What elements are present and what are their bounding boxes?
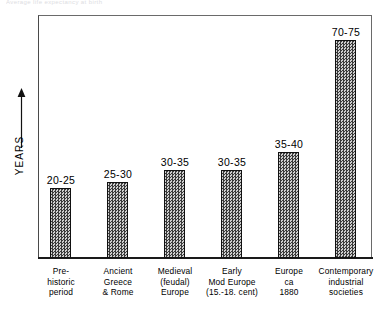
bar <box>335 40 356 258</box>
category-label-line: societies <box>307 287 385 298</box>
bar-value-label: 70-75 <box>311 26 381 38</box>
bar-value-label: 30-35 <box>197 156 267 168</box>
bar <box>278 152 299 258</box>
bar <box>107 182 128 258</box>
category-label: Contemporaryindustrialsocieties <box>307 266 385 298</box>
bar-value-label: 35-40 <box>254 138 324 150</box>
category-label-line: Contemporary <box>307 266 385 277</box>
category-label-line: industrial <box>307 277 385 288</box>
x-axis-baseline <box>38 257 373 259</box>
bar <box>50 188 71 258</box>
y-axis-title: YEARS <box>14 126 25 186</box>
top-caption: Average life expectancy at birth <box>6 0 102 5</box>
chart-root: Average life expectancy at birth YEARS 2… <box>0 0 389 318</box>
bar-value-label: 25-30 <box>83 168 153 180</box>
bar <box>164 170 185 258</box>
bar <box>221 170 242 258</box>
plot-frame <box>38 15 372 258</box>
